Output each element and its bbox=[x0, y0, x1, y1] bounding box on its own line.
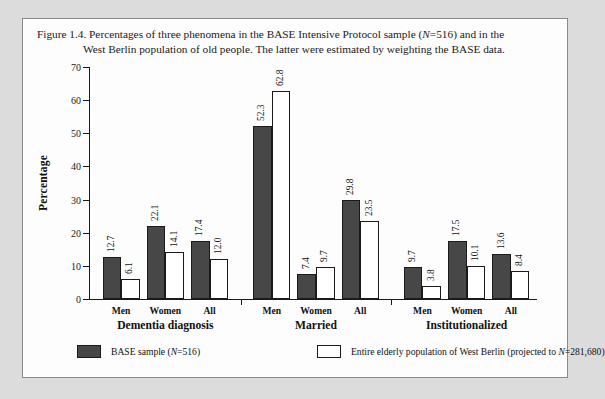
y-tick-label: 20 bbox=[71, 227, 81, 238]
legend-swatch-westberlin bbox=[317, 345, 341, 358]
y-tick-label: 10 bbox=[71, 260, 81, 271]
x-sub-label-women: Women bbox=[300, 305, 331, 316]
bar-westberlin: 9.7 bbox=[316, 267, 335, 299]
bar-base: 52.3 bbox=[253, 126, 272, 299]
bar-value-label: 7.4 bbox=[301, 258, 311, 270]
x-group-separator-tick bbox=[241, 299, 242, 305]
bar-value-label: 12.0 bbox=[213, 238, 223, 254]
y-tick-label: 30 bbox=[71, 194, 81, 205]
y-tick-mark bbox=[83, 133, 89, 134]
y-tick-mark bbox=[83, 166, 89, 167]
figure-caption: Figure 1.4. Percentages of three phenome… bbox=[37, 27, 555, 57]
italic-n: N bbox=[422, 28, 430, 40]
x-sub-label-women: Women bbox=[451, 305, 482, 316]
bar-value-label: 17.4 bbox=[194, 220, 204, 236]
bar-base: 12.7 bbox=[103, 257, 122, 299]
bar-value-label: 13.6 bbox=[496, 233, 506, 249]
caption-line-2: West Berlin population of old people. Th… bbox=[37, 42, 555, 57]
bar-value-label: 29.8 bbox=[345, 179, 355, 195]
x-sub-label-all: All bbox=[354, 305, 366, 316]
bar-value-label: 62.8 bbox=[275, 69, 285, 85]
x-group-label: Institutionalized bbox=[426, 319, 507, 332]
bar-base: 17.4 bbox=[191, 241, 210, 299]
bar-westberlin: 8.4 bbox=[511, 271, 530, 299]
plot-area: Percentage 010203040506070 12.76.122.114… bbox=[89, 67, 537, 299]
bar-base: 13.6 bbox=[492, 254, 511, 299]
y-axis-line bbox=[89, 67, 90, 299]
figure-frame: Figure 1.4. Percentages of three phenome… bbox=[22, 18, 568, 378]
chart-legend: BASE sample (N=516)Entire elderly popula… bbox=[37, 345, 557, 367]
bar-westberlin: 10.1 bbox=[467, 266, 486, 299]
bar-value-label: 9.7 bbox=[407, 250, 417, 262]
bar-westberlin: 23.5 bbox=[360, 221, 379, 299]
legend-item: BASE sample (N=516) bbox=[77, 345, 200, 358]
x-group-label: Married bbox=[295, 319, 337, 332]
bar-value-label: 17.5 bbox=[451, 220, 461, 236]
y-tick-mark bbox=[83, 67, 89, 68]
bar-base: 29.8 bbox=[342, 200, 361, 299]
legend-swatch-base bbox=[77, 345, 101, 358]
bar-westberlin: 14.1 bbox=[165, 252, 184, 299]
y-tick-mark bbox=[83, 299, 89, 300]
bar-westberlin: 12.0 bbox=[210, 259, 229, 299]
bar-base: 7.4 bbox=[297, 274, 316, 299]
x-sub-label-men: Men bbox=[413, 305, 432, 316]
y-tick-mark bbox=[83, 100, 89, 101]
bar-westberlin: 3.8 bbox=[422, 286, 441, 299]
legend-item: Entire elderly population of West Berlin… bbox=[317, 345, 605, 358]
bar-westberlin: 6.1 bbox=[121, 279, 140, 299]
bar-base: 17.5 bbox=[448, 241, 467, 299]
y-tick-mark bbox=[83, 266, 89, 267]
x-group-label: Dementia diagnosis bbox=[117, 319, 213, 332]
bar-value-label: 8.4 bbox=[514, 254, 524, 266]
x-group-separator-tick bbox=[391, 299, 392, 305]
bar-value-label: 12.7 bbox=[106, 236, 116, 252]
bar-value-label: 23.5 bbox=[364, 200, 374, 216]
bar-base: 9.7 bbox=[404, 267, 423, 299]
bar-value-label: 9.7 bbox=[319, 250, 329, 262]
bar-value-label: 6.1 bbox=[124, 262, 134, 274]
bar-value-label: 3.8 bbox=[426, 270, 436, 282]
y-tick-mark bbox=[83, 200, 89, 201]
bar-value-label: 52.3 bbox=[256, 104, 266, 120]
bar-base: 22.1 bbox=[147, 226, 166, 299]
y-tick-label: 70 bbox=[71, 62, 81, 73]
caption-line-1: Figure 1.4. Percentages of three phenome… bbox=[37, 28, 504, 40]
x-sub-label-all: All bbox=[505, 305, 517, 316]
y-axis-title: Percentage bbox=[37, 155, 49, 211]
y-tick-label: 0 bbox=[76, 294, 81, 305]
x-axis-line bbox=[89, 299, 537, 300]
y-tick-mark bbox=[83, 233, 89, 234]
y-tick-label: 60 bbox=[71, 95, 81, 106]
bar-value-label: 22.1 bbox=[150, 204, 160, 220]
legend-label: Entire elderly population of West Berlin… bbox=[351, 346, 605, 357]
y-tick-label: 50 bbox=[71, 128, 81, 139]
x-sub-label-men: Men bbox=[262, 305, 281, 316]
bar-westberlin: 62.8 bbox=[272, 91, 291, 299]
bar-value-label: 14.1 bbox=[169, 231, 179, 247]
x-sub-label-women: Women bbox=[150, 305, 181, 316]
y-tick-label: 40 bbox=[71, 161, 81, 172]
x-sub-label-men: Men bbox=[112, 305, 131, 316]
bar-value-label: 10.1 bbox=[470, 244, 480, 260]
legend-label: BASE sample (N=516) bbox=[111, 346, 200, 357]
x-sub-label-all: All bbox=[203, 305, 215, 316]
